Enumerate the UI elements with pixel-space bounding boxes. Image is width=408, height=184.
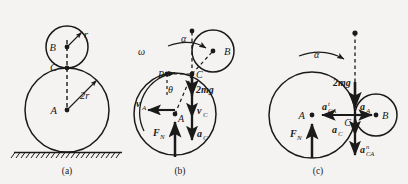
panel-b-label-B: B [224,46,231,57]
figure-svg: B r C A 2r (a) ω α B P C θ A v A 2mg v C… [0,0,408,184]
panel-b-point-B-dot [211,49,216,54]
panel-c [269,30,397,158]
panel-b-label-FN: F N [152,127,165,141]
panel-c-label-aCAt-base: a [322,101,327,112]
panel-b-label-omega: ω [138,46,145,57]
panel-c-label-FN-sub: N [296,134,302,142]
panel-c-label-C: C [344,117,351,128]
panel-b-label-FN-base: F [152,127,160,138]
panel-c-label-aCAn-base: a [360,144,365,155]
panel-c-label-aCAn-sup: n [366,143,369,150]
panel-b-point-P-dot [165,72,170,77]
panel-b-label-aC-base: a [197,128,202,139]
panel-c-alpha-arrow [299,52,344,59]
panel-b-label-vA-base: v [136,98,141,109]
panel-b-label-weight: 2mg [195,84,214,95]
panel-b-label-aC-sub: C [203,134,208,142]
panel-a-point-C-dot [65,66,70,71]
panel-c-label-weight: 2mg [332,77,351,88]
panel-c-point-A-dot [310,113,315,118]
panel-a-label-B: B [50,42,57,53]
panel-a-label-r: r [84,29,89,40]
panel-c-top-dot [352,30,357,35]
panel-c-caption: (c) [313,166,324,177]
panel-c-label-alpha: α [314,49,320,60]
panel-c-label-aA: a A [360,101,371,115]
panel-b-label-P: P [157,69,164,80]
panel-c-label-aC: a C [332,124,343,138]
panel-c-label-aC-base: a [332,124,337,135]
panel-c-label-aA-sub: A [365,107,371,115]
panel-a-label-2r: 2r [80,90,90,101]
panel-c-label-B: B [382,110,389,121]
panel-b-point-A-dot [173,112,178,117]
panel-b-line-A-to-C [175,74,192,114]
panel-b-label-theta: θ [168,84,173,95]
panel-c-label-aCA-t: a t CA [322,100,336,114]
panel-c-label-aCAt-sup: t [328,100,330,107]
panel-c-label-FN: F N [289,128,302,142]
panel-b-contact-top-dot [190,29,195,34]
panel-b [134,29,234,157]
panel-a-point-A-dot [65,108,70,113]
panel-b-label-vC-base: v [197,105,202,116]
panel-c-label-aCAt-sub: CA [328,107,336,114]
panel-b-label-C: C [196,69,203,80]
panel-c-label-FN-base: F [289,128,297,139]
panel-b-label-FN-sub: N [159,133,165,141]
panel-c-point-B-dot [374,113,379,118]
panel-a [11,26,122,158]
panel-c-label-aCA-n: a n CA [360,143,374,157]
panel-b-label-alpha: α [181,33,187,44]
panel-c-label-A: A [298,110,306,121]
panel-c-label-aA-base: a [360,101,365,112]
panel-c-label-aCAn-sub: CA [366,150,374,157]
panel-b-omega-arrow [140,73,175,131]
panel-c-label-aC-sub: C [338,130,343,138]
panel-a-label-A: A [50,105,58,116]
panel-a-point-B-dot [65,45,70,50]
panel-a-radius-r-arrow [67,33,82,48]
panel-b-label-A: A [177,113,185,124]
panel-a-ground-hatching [11,153,120,159]
panel-b-label-vC-sub: C [203,111,208,119]
panel-b-label-vA-sub: A [141,104,147,112]
panel-a-label-C: C [50,62,58,73]
panel-b-label-vC: v C [197,105,208,119]
panel-b-alpha-arrow [168,42,206,48]
panel-b-label-aC: a C [197,128,208,142]
figure-canvas: B r C A 2r (a) ω α B P C θ A v A 2mg v C… [0,0,408,184]
panel-a-caption: (a) [62,166,73,177]
panel-b-caption: (b) [174,166,185,177]
panel-b-point-C-dot [190,72,195,77]
